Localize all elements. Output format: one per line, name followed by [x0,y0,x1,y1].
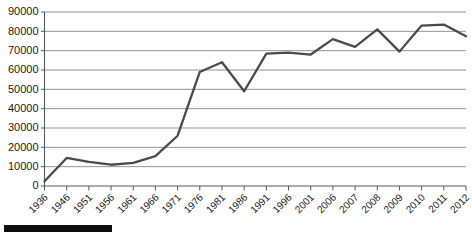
data-series-line [45,25,467,182]
y-axis-tick-label: 60000 [8,63,39,75]
line-chart: 0100002000030000400005000060000700008000… [0,0,472,237]
y-axis-tick-label: 80000 [8,25,39,37]
scale-bar [4,225,112,232]
x-axis-tick-label: 2007 [337,191,361,215]
y-axis-tick-label: 50000 [8,83,39,95]
x-axis-tick-label: 1976 [182,191,206,215]
x-axis-tick-label: 1951 [71,191,95,215]
x-axis-tick-label: 1996 [270,191,294,215]
x-axis-tick-label: 2008 [359,191,383,215]
x-axis-tick-labels: 1936194619511956196119661971197619811986… [26,191,471,215]
x-axis-tick-label: 2009 [381,191,405,215]
x-axis-tick-label: 2010 [404,191,428,215]
x-axis-tick-label: 1991 [248,191,272,215]
y-axis-tick-label: 20000 [8,141,39,153]
y-axis-tick-labels: 0100002000030000400005000060000700008000… [8,5,39,191]
chart-container: 0100002000030000400005000060000700008000… [0,0,472,237]
x-axis-tick-label: 1936 [26,191,50,215]
x-axis-tick-label: 1966 [137,191,161,215]
x-axis-tick-label: 1956 [93,191,117,215]
x-axis-tick-label: 2012 [448,191,472,215]
gridlines [41,12,466,186]
x-axis-tick-label: 2001 [293,191,317,215]
x-axis-tick-label: 2011 [426,191,449,214]
x-axis-tick-marks [45,186,467,191]
y-axis-tick-label: 10000 [8,160,39,172]
y-axis-tick-label: 0 [32,179,38,191]
y-axis-tick-label: 30000 [8,121,39,133]
x-axis-tick-label: 1961 [115,191,139,215]
y-axis-tick-label: 70000 [8,44,39,56]
x-axis-tick-label: 1971 [160,191,184,215]
x-axis-tick-label: 1946 [49,191,73,215]
x-axis-tick-label: 2006 [315,191,339,215]
x-axis-tick-label: 1986 [226,191,250,215]
x-axis-tick-label: 1981 [204,191,228,215]
y-axis-tick-label: 90000 [8,5,39,17]
y-axis-tick-label: 40000 [8,102,39,114]
